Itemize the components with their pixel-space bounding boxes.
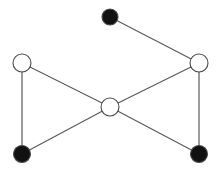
graph-diagram (0, 0, 219, 174)
edge-center-to-bottom-right (110, 107, 199, 154)
edge-right-to-center (110, 63, 199, 107)
node-left-empty (13, 54, 31, 72)
node-bottom-right-filled (191, 146, 208, 163)
edge-top-to-right (110, 17, 199, 63)
node-bottom-left-filled (14, 146, 31, 163)
node-top-filled (102, 9, 118, 25)
edge-left-to-center (22, 63, 110, 107)
nodes-group (13, 9, 208, 163)
edge-center-to-bottom-left (22, 107, 110, 154)
node-right-empty (190, 54, 208, 72)
node-center-empty (101, 98, 119, 116)
edges-group (22, 17, 199, 154)
